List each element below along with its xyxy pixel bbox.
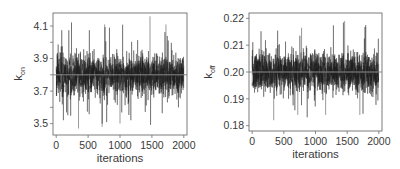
x-axis-title: iterations bbox=[97, 152, 144, 164]
x-axis-title: iterations bbox=[292, 148, 339, 160]
x-tick-label: 2000 bbox=[172, 139, 196, 151]
y-tick-label: 0.19 bbox=[224, 93, 245, 105]
x-tick-label: 1500 bbox=[335, 135, 359, 147]
x-tick-label: 1500 bbox=[140, 139, 164, 151]
x-tick-label: 2000 bbox=[367, 135, 391, 147]
x-tick-label: 500 bbox=[275, 135, 293, 147]
x-tick-label: 500 bbox=[79, 139, 97, 151]
y-tick-label: 0.21 bbox=[224, 39, 245, 51]
y-tick-label: 0.18 bbox=[224, 119, 245, 131]
x-tick-label: 0 bbox=[249, 135, 255, 147]
trace-plots-figure: 05001000150020003.53.73.94.1iterationsko… bbox=[0, 0, 400, 169]
y-tick-label: 3.9 bbox=[33, 52, 48, 64]
y-tick-label: 4.1 bbox=[33, 20, 48, 32]
x-tick-label: 1000 bbox=[304, 135, 328, 147]
koff-trace-panel: 05001000150020000.180.190.200.210.22iter… bbox=[202, 12, 391, 160]
y-axis-title: kon bbox=[12, 67, 26, 81]
y-tick-label: 3.5 bbox=[33, 117, 48, 129]
y-tick-label: 0.22 bbox=[224, 12, 245, 24]
x-tick-label: 0 bbox=[53, 139, 59, 151]
y-tick-label: 3.7 bbox=[33, 85, 48, 97]
kon-trace-panel: 05001000150020003.53.73.94.1iterationsko… bbox=[12, 13, 196, 164]
y-axis-title: koff bbox=[202, 65, 216, 78]
y-tick-label: 0.20 bbox=[224, 66, 245, 78]
x-tick-label: 1000 bbox=[108, 139, 132, 151]
